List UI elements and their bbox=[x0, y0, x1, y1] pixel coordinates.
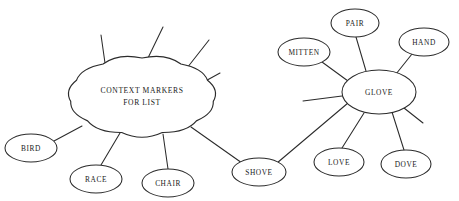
hub-node-glove[interactable]: GLOVE bbox=[342, 70, 416, 114]
free-stub-glove-6 bbox=[404, 108, 423, 123]
node-label-chair: CHAIR bbox=[155, 179, 181, 188]
node-label-shove: SHOVE bbox=[245, 168, 272, 177]
central-cloud-node[interactable]: CONTEXT MARKERSFOR LIST bbox=[68, 56, 215, 137]
edge-glove-to-love bbox=[342, 113, 364, 148]
node-hand[interactable]: HAND bbox=[399, 28, 449, 56]
node-chair[interactable]: CHAIR bbox=[142, 169, 194, 197]
edge-glove-to-dove bbox=[392, 112, 404, 150]
node-label-dove: DOVE bbox=[395, 160, 418, 169]
node-label-pair: PAIR bbox=[346, 19, 364, 28]
node-pair[interactable]: PAIR bbox=[331, 9, 379, 37]
edge-cloud-to-race bbox=[101, 133, 120, 165]
edge-glove-to-pair bbox=[356, 37, 366, 71]
edge-cloud-to-bird bbox=[54, 126, 82, 141]
node-label-love: LOVE bbox=[328, 158, 350, 167]
edge-glove-to-mitten bbox=[322, 62, 348, 81]
node-label-bird: BIRD bbox=[21, 144, 41, 153]
hub-label-glove: GLOVE bbox=[365, 88, 393, 97]
diagram-canvas: CONTEXT MARKERSFOR LIST GLOVE BIRDRACECH… bbox=[0, 0, 459, 201]
free-stub-glove-5 bbox=[303, 96, 342, 101]
node-shove[interactable]: SHOVE bbox=[232, 158, 286, 186]
node-race[interactable]: RACE bbox=[70, 165, 122, 193]
cloud-label-line-1: CONTEXT MARKERS bbox=[101, 86, 184, 95]
cloud-shape[interactable] bbox=[68, 56, 215, 137]
node-mitten[interactable]: MITTEN bbox=[278, 38, 330, 66]
node-love[interactable]: LOVE bbox=[314, 148, 364, 176]
node-label-race: RACE bbox=[85, 175, 107, 184]
node-dove[interactable]: DOVE bbox=[381, 150, 431, 178]
concept-map-diagram: CONTEXT MARKERSFOR LIST GLOVE BIRDRACECH… bbox=[0, 0, 459, 201]
free-stub-cloud-1 bbox=[101, 35, 105, 63]
node-bird[interactable]: BIRD bbox=[5, 134, 57, 162]
cloud-label-line-2: FOR LIST bbox=[123, 98, 161, 107]
edge-cloud-to-chair bbox=[163, 134, 168, 169]
free-stub-cloud-2 bbox=[147, 27, 163, 60]
node-label-hand: HAND bbox=[412, 38, 436, 47]
free-stub-cloud-3 bbox=[187, 40, 209, 68]
edge-cloud-to-shove bbox=[191, 127, 242, 163]
node-label-mitten: MITTEN bbox=[288, 48, 319, 57]
edge-glove-to-hand bbox=[396, 54, 412, 74]
